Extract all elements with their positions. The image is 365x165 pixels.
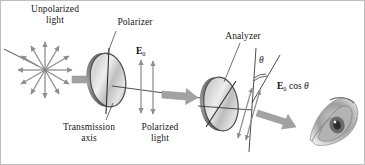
cos-theta-angle: θ bbox=[304, 81, 309, 91]
theta-angle-label: θ bbox=[259, 55, 264, 65]
polarizer-disc bbox=[82, 48, 129, 114]
analyzer-leader-line bbox=[224, 43, 240, 82]
polarizer-label: Polarizer bbox=[104, 17, 166, 28]
polarized-light-label: Polarized light bbox=[131, 122, 189, 144]
e0-cos-theta-label: E0 cos θ bbox=[277, 81, 309, 92]
polarizer-leader-line bbox=[107, 31, 116, 55]
unpolarized-light-label: Unpolarized light bbox=[16, 4, 94, 26]
cos-operator: cos bbox=[289, 81, 302, 91]
polarization-figure: Unpolarized light Polarizer Transmission… bbox=[0, 0, 365, 165]
e0-field-arrows bbox=[141, 60, 153, 114]
propagation-arrow-to-eye bbox=[256, 110, 296, 129]
analyzer-disc bbox=[196, 75, 252, 133]
e0-subscript: 0 bbox=[142, 50, 145, 57]
transmission-axis-label: Transmission axis bbox=[49, 122, 129, 144]
eye-illustration bbox=[310, 98, 358, 146]
e0-vector-label: E0 bbox=[136, 46, 146, 57]
analyzer-label: Analyzer bbox=[212, 31, 274, 42]
starburst-center bbox=[43, 68, 46, 71]
propagation-arrow-to-analyzer bbox=[162, 89, 198, 105]
vertical-reference-line bbox=[249, 48, 256, 152]
